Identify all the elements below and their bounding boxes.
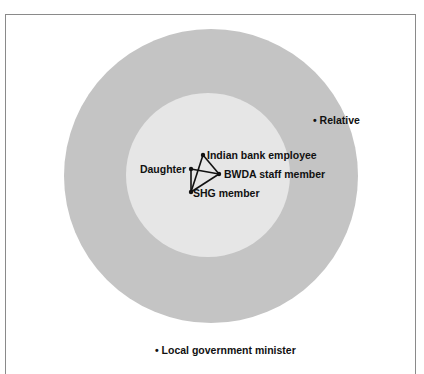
label-shg-member: SHG member bbox=[193, 187, 260, 199]
label-local-government-minister: • Local government minister bbox=[155, 344, 296, 356]
node-bwda-staff-member bbox=[217, 172, 221, 176]
node-indian-bank-employee bbox=[201, 153, 205, 157]
label-relative: • Relative bbox=[313, 114, 360, 126]
node-daughter bbox=[189, 167, 193, 171]
label-daughter: Daughter bbox=[140, 163, 186, 175]
label-bwda-staff-member: BWDA staff member bbox=[224, 168, 325, 180]
label-indian-bank-employee: Indian bank employee bbox=[207, 149, 317, 161]
